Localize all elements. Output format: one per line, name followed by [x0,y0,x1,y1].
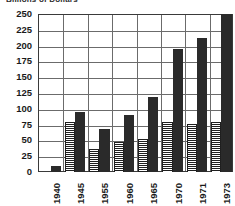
x-axis-tick-label: 1973 [222,183,232,204]
bar-solid [197,38,207,172]
y-axis-tick-label: 250 [16,9,32,19]
bar-hatched [89,149,99,172]
bar-group [184,14,208,172]
bar-solid [99,129,109,172]
y-axis-tick-label: 25 [21,151,32,161]
bar-solid [173,49,183,172]
x-axis-tick-label: 1970 [174,183,184,204]
x-axis-tick-label: 1940 [52,183,62,204]
x-axis-tick-label: 1965 [149,183,159,204]
bar-chart: Billions of Dollars 02550751001251501752… [0,0,235,206]
bar-group [136,14,160,172]
bar-solid [51,166,61,172]
x-axis-tick-label: 1955 [100,183,110,204]
y-axis-tick-label: 175 [16,57,32,67]
bar-solid [124,115,134,172]
bar-group [111,14,135,172]
y-axis-tick-label: 50 [21,136,32,146]
bar-hatched [162,122,172,172]
bar-group [38,14,62,172]
chart-title: Billions of Dollars [6,0,78,5]
bar-hatched [138,139,148,172]
bar-group [209,14,233,172]
bar-group [160,14,184,172]
x-axis-tick-label: 1945 [76,183,86,204]
bar-series-layer [38,14,233,172]
x-axis: 19401945195519601965197019711973 [38,174,233,206]
y-axis-tick-label: 225 [16,25,32,35]
bar-solid [221,14,231,172]
bar-hatched [187,124,197,172]
y-axis-tick-label: 75 [21,120,32,130]
bar-group [62,14,86,172]
x-axis-tick-label: 1960 [125,183,135,204]
bar-hatched [65,122,75,172]
y-axis: 0255075100125150175200225250 [0,14,36,172]
bar-hatched [114,142,124,172]
y-axis-tick-label: 150 [16,72,32,82]
bar-hatched [211,122,221,172]
y-axis-tick-label: 100 [16,104,32,114]
bar-group [87,14,111,172]
y-axis-tick-label: 0 [27,167,32,177]
y-axis-tick-label: 200 [16,41,32,51]
x-axis-tick-label: 1971 [198,183,208,204]
y-axis-tick-label: 125 [16,88,32,98]
bar-solid [75,112,85,172]
bar-solid [148,97,158,172]
